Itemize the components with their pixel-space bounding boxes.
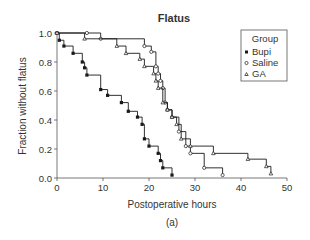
open-triangle-icon — [115, 44, 119, 47]
x-tick-label: 20 — [144, 182, 155, 193]
y-tick-label: 0.2 — [39, 144, 52, 155]
filled-square-icon — [85, 73, 88, 76]
open-triangle-icon — [269, 172, 273, 175]
y-tick-label: 0.8 — [39, 57, 52, 68]
open-triangle-icon — [265, 165, 269, 168]
legend-label: Saline — [252, 57, 278, 68]
filled-square-icon — [58, 39, 61, 42]
open-circle-icon — [189, 152, 192, 155]
filled-square-icon — [127, 110, 130, 113]
filled-square-icon — [170, 174, 173, 177]
x-tick-label: 0 — [54, 182, 59, 193]
x-tick-label: 30 — [190, 182, 201, 193]
filled-square-icon — [62, 44, 65, 47]
legend-label: Bupi — [252, 46, 271, 57]
filled-square-icon — [72, 52, 75, 55]
filled-square-icon — [161, 166, 164, 169]
y-tick-label: 0.6 — [39, 86, 52, 97]
open-circle-icon — [143, 44, 146, 47]
filled-square-icon — [81, 60, 84, 63]
open-triangle-icon — [138, 57, 142, 60]
chart-title: Flatus — [158, 12, 190, 24]
open-triangle-icon — [152, 72, 156, 75]
figure-caption: (a) — [166, 217, 178, 228]
y-tick-label: 1.0 — [39, 28, 52, 39]
filled-square-icon — [245, 51, 248, 54]
filled-square-icon — [157, 152, 160, 155]
legend-label: GA — [252, 68, 266, 79]
x-axis-label: Postoperative hours — [128, 199, 217, 210]
open-triangle-icon — [175, 122, 179, 125]
open-circle-icon — [85, 31, 88, 34]
y-tick-label: 0.0 — [39, 173, 52, 184]
filled-square-icon — [147, 145, 150, 148]
filled-square-icon — [83, 66, 86, 69]
open-circle-icon — [177, 130, 180, 133]
open-triangle-icon — [246, 157, 250, 160]
kaplan-meier-chart: Flatus 0.00.20.40.60.81.0 01020304050 Fr… — [0, 0, 310, 240]
open-triangle-icon — [143, 64, 147, 67]
legend-title: Group — [252, 33, 278, 44]
open-triangle-icon — [212, 151, 216, 154]
open-circle-icon — [157, 72, 160, 75]
open-circle-icon — [159, 79, 162, 82]
x-tick-label: 50 — [282, 182, 293, 193]
filled-square-icon — [99, 88, 102, 91]
open-circle-icon — [150, 50, 153, 53]
filled-square-icon — [120, 101, 123, 104]
open-circle-icon — [154, 65, 157, 68]
filled-square-icon — [143, 137, 146, 140]
open-circle-icon — [184, 145, 187, 148]
x-tick-label: 10 — [98, 182, 109, 193]
open-triangle-icon — [83, 37, 87, 40]
open-triangle-icon — [179, 137, 183, 140]
y-axis-label: Fraction without flatus — [17, 57, 28, 154]
filled-square-icon — [136, 116, 139, 119]
plot-series — [55, 31, 273, 177]
y-axis: 0.00.20.40.60.81.0 — [39, 28, 57, 184]
open-triangle-icon — [124, 51, 128, 54]
open-circle-icon — [221, 174, 224, 177]
open-circle-icon — [245, 61, 248, 64]
y-tick-label: 0.4 — [39, 115, 52, 126]
open-circle-icon — [203, 166, 206, 169]
open-triangle-icon — [154, 79, 158, 82]
filled-square-icon — [141, 123, 144, 126]
filled-square-icon — [106, 94, 109, 97]
open-triangle-icon — [189, 144, 193, 147]
filled-square-icon — [159, 159, 162, 162]
x-tick-label: 40 — [236, 182, 247, 193]
open-triangle-icon — [156, 86, 160, 89]
legend: Group Bupi Saline GA — [241, 30, 287, 81]
series-ga — [55, 31, 273, 175]
x-axis: 01020304050 — [54, 178, 292, 193]
